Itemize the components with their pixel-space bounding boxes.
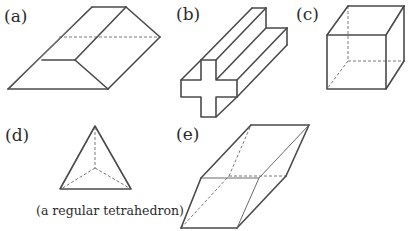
label-e: (e): [176, 124, 199, 144]
shape-a: (a): [4, 6, 160, 89]
label-b: (b): [176, 4, 200, 24]
shape-e: (e): [176, 124, 309, 228]
solids-figure: (a) (b) (c): [0, 0, 408, 231]
shape-c: (c): [296, 4, 404, 89]
label-c: (c): [296, 4, 319, 24]
shape-b: (b): [176, 4, 287, 117]
label-a: (a): [4, 6, 27, 26]
label-d: (d): [5, 125, 29, 145]
caption-d: (a regular tetrahedron): [36, 203, 184, 218]
shape-d: (d) (a regular tetrahedron): [5, 125, 184, 218]
